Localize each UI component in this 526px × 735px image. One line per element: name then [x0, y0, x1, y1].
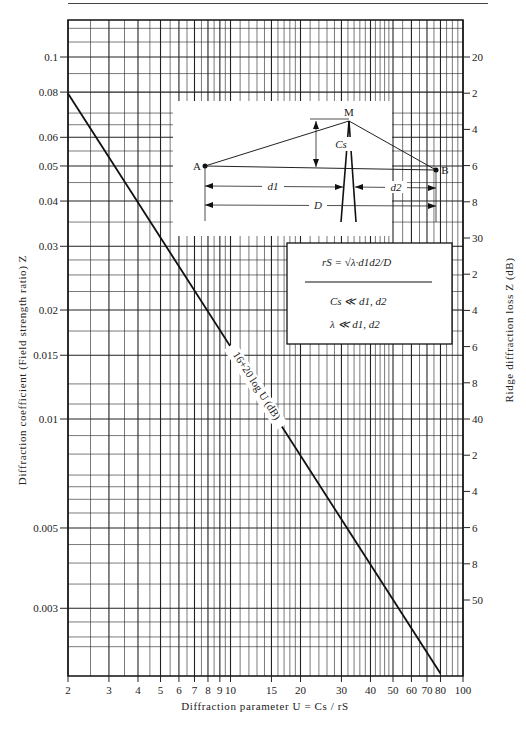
y-axis-left: 0.10.080.060.050.040.030.020.0150.010.00…: [33, 51, 68, 614]
y-tick-label: 0.04: [39, 195, 59, 207]
formula-rs: rS = √λ·d1d2/D: [322, 256, 391, 268]
x-tick-label: 50: [388, 684, 400, 696]
label-d1: d1: [268, 180, 279, 192]
x-tick-label: 15: [266, 684, 278, 696]
y-axis-right: 20246830246840246850: [463, 51, 484, 606]
y2-tick-label: 8: [472, 558, 478, 570]
x-tick-label: 8: [205, 684, 211, 696]
y2-tick-label: 6: [472, 341, 478, 353]
y-tick-label: 0.003: [33, 602, 58, 614]
x-tick-label: 4: [135, 684, 141, 696]
y-tick-label: 0.015: [33, 349, 58, 361]
label-cs: Cs: [335, 138, 347, 150]
y-tick-label: 0.03: [39, 240, 59, 252]
y2-tick-label: 6: [472, 522, 478, 534]
plot-frame: [68, 20, 463, 676]
y-tick-label: 0.02: [39, 304, 58, 316]
x-axis: 23456789101520304050607080100: [65, 676, 472, 696]
y-tick-label: 0.01: [39, 413, 58, 425]
y2-tick-label: 2: [472, 87, 478, 99]
y2-tick-label: 20: [472, 51, 484, 63]
x-axis-title: Diffraction parameter U = Cs / rS: [181, 700, 349, 712]
grid: [68, 20, 463, 676]
y2-tick-label: 4: [472, 123, 478, 135]
label-D: D: [313, 199, 322, 211]
y2-tick-label: 30: [472, 232, 484, 244]
y2-tick-label: 8: [472, 196, 478, 208]
x-tick-label: 9: [217, 684, 223, 696]
x-tick-label: 2: [65, 684, 71, 696]
y2-tick-label: 2: [472, 268, 478, 280]
label-a: A: [193, 160, 201, 172]
x-tick-label: 10: [225, 684, 237, 696]
x-tick-label: 3: [106, 684, 112, 696]
x-tick-label: 20: [295, 684, 307, 696]
x-tick-label: 80: [435, 684, 447, 696]
y2-tick-label: 4: [472, 304, 478, 316]
y2-tick-label: 6: [472, 160, 478, 172]
label-b: B: [441, 164, 448, 176]
geometry-diagram: ABMCsd1d2D: [193, 106, 449, 222]
y2-axis-title: Ridge diffraction loss Z (dB): [503, 258, 516, 403]
x-tick-label: 6: [176, 684, 182, 696]
y2-tick-label: 8: [472, 377, 478, 389]
y-axis-title: Diffraction coefficient (Field strength …: [16, 255, 29, 485]
x-tick-label: 40: [365, 684, 377, 696]
x-tick-label: 30: [336, 684, 348, 696]
diffraction-chart: 0.10.080.060.050.040.030.020.0150.010.00…: [0, 0, 526, 735]
y2-tick-label: 2: [472, 449, 478, 461]
label-m: M: [344, 106, 354, 118]
condition-cs: Cs ≪ d1, d2: [330, 295, 387, 308]
y-tick-label: 0.05: [39, 160, 59, 172]
y-tick-label: 0.005: [33, 522, 58, 534]
y-tick-label: 0.06: [39, 131, 59, 143]
y-tick-label: 0.1: [44, 51, 58, 63]
y2-tick-label: 40: [472, 413, 484, 425]
x-tick-label: 60: [406, 684, 418, 696]
x-tick-label: 100: [455, 684, 472, 696]
x-tick-label: 5: [158, 684, 164, 696]
y-tick-label: 0.08: [39, 86, 59, 98]
ridge: [341, 121, 349, 222]
y2-tick-label: 4: [472, 485, 478, 497]
condition-lambda: λ ≪ d1, d2: [330, 318, 380, 331]
x-tick-label: 7: [192, 684, 198, 696]
x-tick-label: 70: [421, 684, 433, 696]
y2-tick-label: 50: [472, 594, 484, 606]
label-d2: d2: [391, 181, 403, 193]
